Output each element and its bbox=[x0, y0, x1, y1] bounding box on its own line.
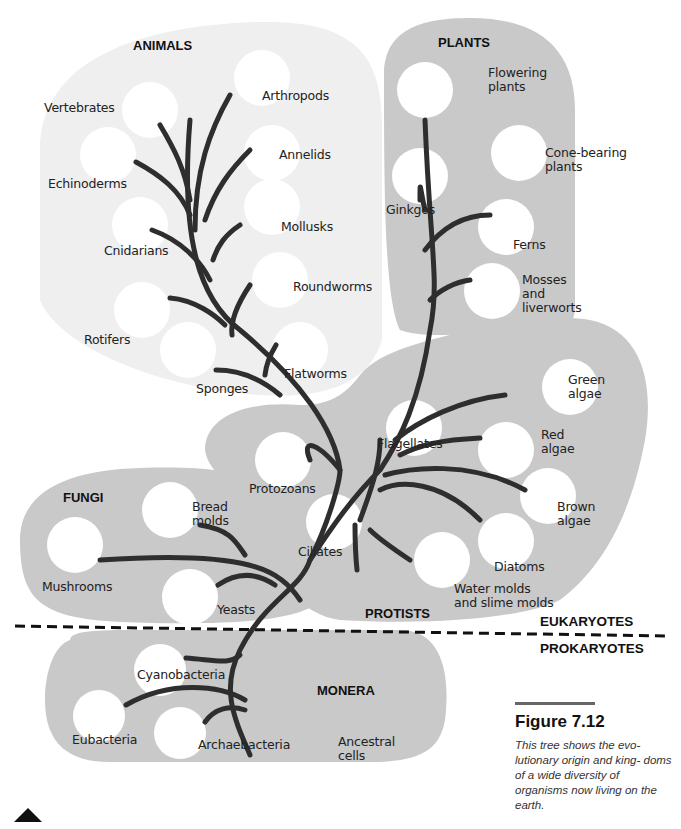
group-label-ciliates: Ciliates bbox=[298, 545, 342, 559]
page-corner-triangle-icon bbox=[14, 808, 42, 822]
group-label-eubacteria: Eubacteria bbox=[72, 733, 137, 747]
kingdom-label-animals: ANIMALS bbox=[133, 38, 192, 53]
domain-label-eukaryotes: EUKARYOTES bbox=[540, 614, 633, 629]
group-label-archaebacteria: Archaebacteria bbox=[198, 738, 290, 752]
group-label-diatoms: Diatoms bbox=[494, 560, 545, 574]
group-label-echinoderms: Echinoderms bbox=[48, 177, 127, 191]
kingdom-label-monera: MONERA bbox=[317, 683, 375, 698]
figure-number: Figure 7.12 bbox=[515, 712, 605, 732]
group-label-rotifers: Rotifers bbox=[84, 333, 130, 347]
group-label-mosses-and-liverworts: Mosses and liverworts bbox=[522, 273, 582, 315]
group-label-vertebrates: Vertebrates bbox=[44, 101, 115, 115]
group-label-green-algae: Green algae bbox=[568, 373, 605, 401]
group-label-red-algae: Red algae bbox=[541, 428, 574, 456]
kingdom-label-fungi: FUNGI bbox=[63, 490, 103, 505]
group-label-cone-bearing-plants: Cone-bearing plants bbox=[545, 146, 627, 174]
group-label-mollusks: Mollusks bbox=[281, 220, 333, 234]
kingdom-label-plants: PLANTS bbox=[438, 35, 490, 50]
group-label-cyanobacteria: Cyanobacteria bbox=[137, 668, 225, 682]
figure-rule bbox=[515, 702, 595, 705]
group-label-protozoans: Protozoans bbox=[249, 482, 316, 496]
group-label-roundworms: Roundworms bbox=[293, 280, 372, 294]
kingdom-label-protists: PROTISTS bbox=[365, 606, 430, 621]
figure-caption: This tree shows the evo- lutionary origi… bbox=[515, 738, 675, 813]
group-label-arthropods: Arthropods bbox=[262, 89, 329, 103]
group-label-cnidarians: Cnidarians bbox=[104, 244, 168, 258]
group-label-flatworms: Flatworms bbox=[284, 367, 347, 381]
group-label-flagellates: Flagellates bbox=[377, 437, 442, 451]
group-label-mushrooms: Mushrooms bbox=[42, 580, 112, 594]
group-label-ginkgos: Ginkgos bbox=[386, 203, 435, 217]
group-label-annelids: Annelids bbox=[279, 148, 331, 162]
group-label-brown-algae: Brown algae bbox=[557, 500, 595, 528]
group-label-bread-molds: Bread molds bbox=[192, 500, 229, 528]
group-label-sponges: Sponges bbox=[196, 382, 248, 396]
root-label-ancestral-cells: Ancestral cells bbox=[338, 735, 395, 763]
domain-label-prokaryotes: PROKARYOTES bbox=[540, 641, 644, 656]
group-label-yeasts: Yeasts bbox=[217, 603, 255, 617]
group-label-flowering-plants: Flowering plants bbox=[488, 66, 547, 94]
group-label-ferns: Ferns bbox=[513, 238, 546, 252]
group-label-water-and-slime-molds: Water molds and slime molds bbox=[454, 582, 554, 610]
tree-of-life-diagram: ANIMALS PLANTS FUNGI PROTISTS MONERA EUK… bbox=[0, 0, 681, 829]
